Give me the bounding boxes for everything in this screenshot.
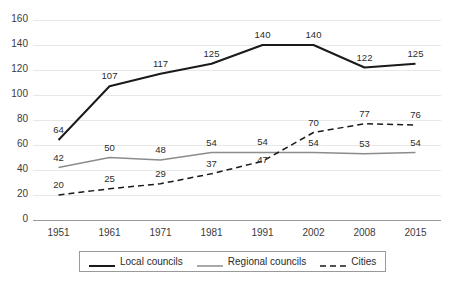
data-point-label: 50 [95, 142, 125, 153]
data-point-label: 140 [248, 29, 278, 40]
data-point-label: 42 [44, 152, 74, 163]
y-axis-tick-label: 80 [2, 113, 28, 124]
y-axis-tick-label: 20 [2, 188, 28, 199]
solid-gray-line-icon [197, 257, 223, 267]
x-axis-tick-label: 1971 [138, 227, 184, 238]
y-axis-tick-label: 160 [2, 13, 28, 24]
solid-thick-line-icon [89, 257, 115, 267]
data-point-label: 37 [197, 158, 227, 169]
legend-item-label: Local councils [120, 256, 183, 267]
data-point-label: 77 [350, 108, 380, 119]
x-axis-tick-label: 2002 [291, 227, 337, 238]
data-point-label: 54 [299, 137, 329, 148]
data-point-label: 47 [248, 154, 278, 165]
y-axis-tick-label: 120 [2, 63, 28, 74]
series-line-regional-councils [59, 153, 416, 168]
line-chart: 160140120100806040200 195119611971198119… [0, 0, 450, 281]
y-axis-tick-label: 140 [2, 38, 28, 49]
data-point-label: 125 [197, 48, 227, 59]
x-axis-tick-label: 1961 [87, 227, 133, 238]
legend-item-label: Regional councils [228, 256, 306, 267]
y-axis-tick-label: 100 [2, 88, 28, 99]
data-point-label: 48 [146, 144, 176, 155]
data-point-label: 125 [401, 48, 431, 59]
legend-item-label: Cities [351, 256, 376, 267]
x-axis-tick-label: 2008 [342, 227, 388, 238]
x-axis-tick-label: 1991 [240, 227, 286, 238]
y-axis-tick-label: 40 [2, 163, 28, 174]
x-axis-tick-label: 1981 [189, 227, 235, 238]
x-axis-tick-label: 2015 [393, 227, 439, 238]
dashed-line-icon [320, 257, 346, 267]
data-point-label: 140 [299, 29, 329, 40]
chart-legend: Local councilsRegional councilsCities [79, 251, 386, 272]
legend-item[interactable]: Local councils [89, 256, 183, 267]
series-line-cities [59, 124, 416, 195]
data-point-label: 54 [197, 137, 227, 148]
data-point-label: 76 [401, 109, 431, 120]
data-point-label: 53 [350, 138, 380, 149]
y-axis-tick-label: 60 [2, 138, 28, 149]
data-point-label: 25 [95, 173, 125, 184]
data-point-label: 54 [401, 137, 431, 148]
x-axis-tick-label: 1951 [36, 227, 82, 238]
data-point-label: 107 [95, 70, 125, 81]
data-point-label: 29 [146, 168, 176, 179]
data-point-label: 122 [350, 52, 380, 63]
data-point-label: 64 [44, 124, 74, 135]
data-point-label: 117 [146, 58, 176, 69]
data-point-label: 20 [44, 179, 74, 190]
legend-item[interactable]: Regional councils [197, 256, 306, 267]
y-axis-tick-label: 0 [2, 213, 28, 224]
data-point-label: 54 [248, 136, 278, 147]
legend-item[interactable]: Cities [320, 256, 376, 267]
data-point-label: 70 [299, 117, 329, 128]
